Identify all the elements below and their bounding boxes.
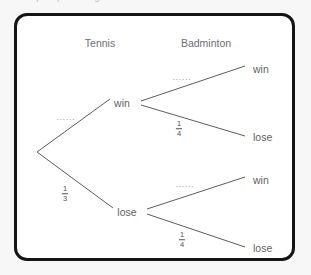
tree-node-bad-lose-win: win <box>253 174 269 186</box>
diagram-page: sample space diagram TennisBadminton win… <box>0 0 311 275</box>
tree-edge-win-to-win <box>141 66 245 101</box>
tree-node-tennis-lose: lose <box>117 206 136 218</box>
blank-probability-placeholder: ...... <box>173 73 192 82</box>
tree-node-bad-win-lose: lose <box>253 131 272 143</box>
edge-label-p-tennis-lose: 13 <box>62 185 68 203</box>
fraction-numerator: 1 <box>179 231 185 240</box>
edge-label-p-tennis-win: ...... <box>57 114 76 122</box>
fraction-denominator: 4 <box>179 240 185 248</box>
tree-edge-win-to-lose <box>141 105 245 136</box>
edge-label-p-bad-lose-lose: 14 <box>179 231 185 249</box>
edge-label-p-bad-win-lose: 14 <box>176 120 182 138</box>
tree-edge-lose-to-lose <box>147 214 245 247</box>
tree-edge-lose-to-win <box>147 177 245 209</box>
fraction-numerator: 1 <box>176 120 182 129</box>
blank-probability-placeholder: ...... <box>57 113 76 122</box>
blank-probability-placeholder: ...... <box>176 180 195 189</box>
edge-label-p-bad-lose-win: ...... <box>176 181 195 189</box>
stage-header-badminton: Badminton <box>181 37 231 49</box>
fraction-denominator: 4 <box>176 129 182 137</box>
fraction-denominator: 3 <box>62 194 68 202</box>
tree-node-bad-lose-lose: lose <box>253 242 272 254</box>
tree-edge-root-to-win <box>37 99 110 152</box>
fraction: 14 <box>179 231 185 248</box>
fraction-numerator: 1 <box>62 185 68 194</box>
stage-header-tennis: Tennis <box>85 37 115 49</box>
fraction: 14 <box>176 120 182 137</box>
tree-node-bad-win-win: win <box>253 63 269 75</box>
tree-node-tennis-win: win <box>114 97 130 109</box>
tree-edge-root-to-lose <box>37 152 113 208</box>
fraction: 13 <box>62 185 68 202</box>
edge-label-p-bad-win-win: ...... <box>173 74 192 82</box>
